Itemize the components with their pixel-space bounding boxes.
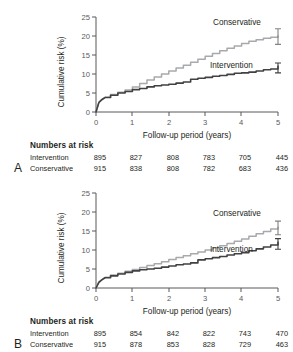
- y-tick-10-b: 10: [82, 246, 90, 255]
- y-axis-title-a: Cumulative risk (%): [57, 36, 66, 107]
- risk-row-label-conservative-a: Conservative: [30, 164, 73, 173]
- x-tick-3-a: 3: [203, 118, 207, 127]
- y-tick-5-a: 5: [86, 89, 90, 98]
- risk-value-a-r1c5: 436: [262, 164, 288, 173]
- series-label-intervention-a: Intervention: [210, 61, 253, 70]
- x-tick-5-b: 5: [276, 294, 280, 303]
- x-tick-0-a: 0: [94, 118, 98, 127]
- x-tick-4-b: 4: [239, 294, 243, 303]
- series-conservative-a: [96, 29, 281, 112]
- series-label-conservative-b: Conservative: [213, 209, 261, 218]
- series-label-conservative-a: Conservative: [213, 18, 261, 27]
- series-conservative-b: [96, 221, 281, 288]
- risk-value-a-r0c0: 895: [80, 153, 106, 162]
- risk-value-a-r1c2: 808: [153, 164, 179, 173]
- risk-value-a-r0c4: 705: [225, 153, 251, 162]
- y-tick-10-a: 10: [82, 70, 90, 79]
- risk-value-b-r0c4: 743: [225, 329, 251, 338]
- y-tick-20-a: 20: [82, 32, 90, 41]
- risk-value-b-r1c4: 729: [225, 340, 251, 349]
- risk-value-b-r1c0: 915: [80, 340, 106, 349]
- chart-svg-b: Cumulative risk (%) 0 5 10 15 20 25 0 1 …: [0, 176, 293, 316]
- plot-area-b: Cumulative risk (%) 0 5 10 15 20 25 0 1 …: [0, 176, 293, 316]
- y-tick-5-b: 5: [86, 265, 90, 274]
- x-tick-1-a: 1: [130, 118, 134, 127]
- x-tick-4-a: 4: [239, 118, 243, 127]
- risk-value-b-r1c3: 828: [189, 340, 215, 349]
- y-tick-20-b: 20: [82, 208, 90, 217]
- risk-value-b-r0c0: 895: [80, 329, 106, 338]
- risk-row-label-conservative-b: Conservative: [30, 340, 73, 349]
- risk-value-b-r1c2: 853: [153, 340, 179, 349]
- chart-svg-a: Cumulative risk (%) 0 5 10 15 20 25 0: [0, 0, 293, 140]
- x-tick-0-b: 0: [94, 294, 98, 303]
- risk-row-label-intervention-b: Intervention: [30, 329, 69, 338]
- x-tick-2-b: 2: [167, 294, 171, 303]
- x-tick-5-a: 5: [276, 118, 280, 127]
- x-tick-1-b: 1: [130, 294, 134, 303]
- risk-value-b-r0c5: 470: [262, 329, 288, 338]
- series-intervention-a: [96, 63, 281, 112]
- risk-value-a-r0c1: 827: [116, 153, 142, 162]
- panel-letter-a: A: [14, 162, 22, 174]
- risk-row-label-intervention-a: Intervention: [30, 153, 69, 162]
- series-label-intervention-b: Intervention: [210, 245, 253, 254]
- panel-a: Cumulative risk (%) 0 5 10 15 20 25 0: [0, 0, 293, 176]
- risk-value-a-r0c5: 445: [262, 153, 288, 162]
- y-tick-25-b: 25: [82, 189, 90, 198]
- x-axis-title-b: Follow-up period (years): [143, 307, 232, 316]
- x-axis-title-a: Follow-up period (years): [143, 131, 232, 140]
- risk-value-a-r0c3: 783: [189, 153, 215, 162]
- series-intervention-b: [96, 239, 281, 288]
- panel-letter-b: B: [14, 338, 22, 350]
- x-tick-3-b: 3: [203, 294, 207, 303]
- plot-area-a: Cumulative risk (%) 0 5 10 15 20 25 0: [0, 0, 293, 140]
- x-tick-2-a: 2: [167, 118, 171, 127]
- risk-value-b-r0c1: 854: [116, 329, 142, 338]
- risk-value-b-r0c3: 822: [189, 329, 215, 338]
- risk-value-a-r1c0: 915: [80, 164, 106, 173]
- risk-value-a-r1c1: 838: [116, 164, 142, 173]
- risk-value-a-r0c2: 808: [153, 153, 179, 162]
- panel-b: Cumulative risk (%) 0 5 10 15 20 25 0 1 …: [0, 176, 293, 352]
- risk-value-a-r1c3: 782: [189, 164, 215, 173]
- numbers-at-risk-title-b: Numbers at risk: [30, 317, 93, 326]
- risk-value-b-r1c5: 463: [262, 340, 288, 349]
- y-axis-title-b: Cumulative risk (%): [57, 212, 66, 283]
- risk-value-a-r1c4: 683: [225, 164, 251, 173]
- y-tick-0-b: 0: [86, 284, 90, 293]
- y-tick-15-b: 15: [82, 227, 90, 236]
- numbers-at-risk-title-a: Numbers at risk: [30, 141, 93, 150]
- risk-value-b-r0c2: 842: [153, 329, 179, 338]
- y-tick-25-a: 25: [82, 13, 90, 22]
- y-tick-15-a: 15: [82, 51, 90, 60]
- y-tick-0-a: 0: [86, 108, 90, 117]
- risk-value-b-r1c1: 878: [116, 340, 142, 349]
